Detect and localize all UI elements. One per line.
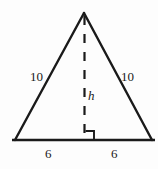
right-angle-marker bbox=[86, 131, 95, 140]
label-base-left-segment: 6 bbox=[45, 147, 52, 160]
label-left-side-length: 10 bbox=[30, 70, 43, 83]
label-height-h: h bbox=[88, 89, 95, 102]
triangle-right-side bbox=[84, 13, 152, 140]
label-base-right-segment: 6 bbox=[111, 147, 118, 160]
triangle-left-side bbox=[15, 13, 84, 140]
geometry-figure: 10 10 h 6 6 bbox=[0, 0, 158, 169]
triangle-diagram-svg bbox=[0, 0, 158, 169]
label-right-side-length: 10 bbox=[121, 70, 134, 83]
